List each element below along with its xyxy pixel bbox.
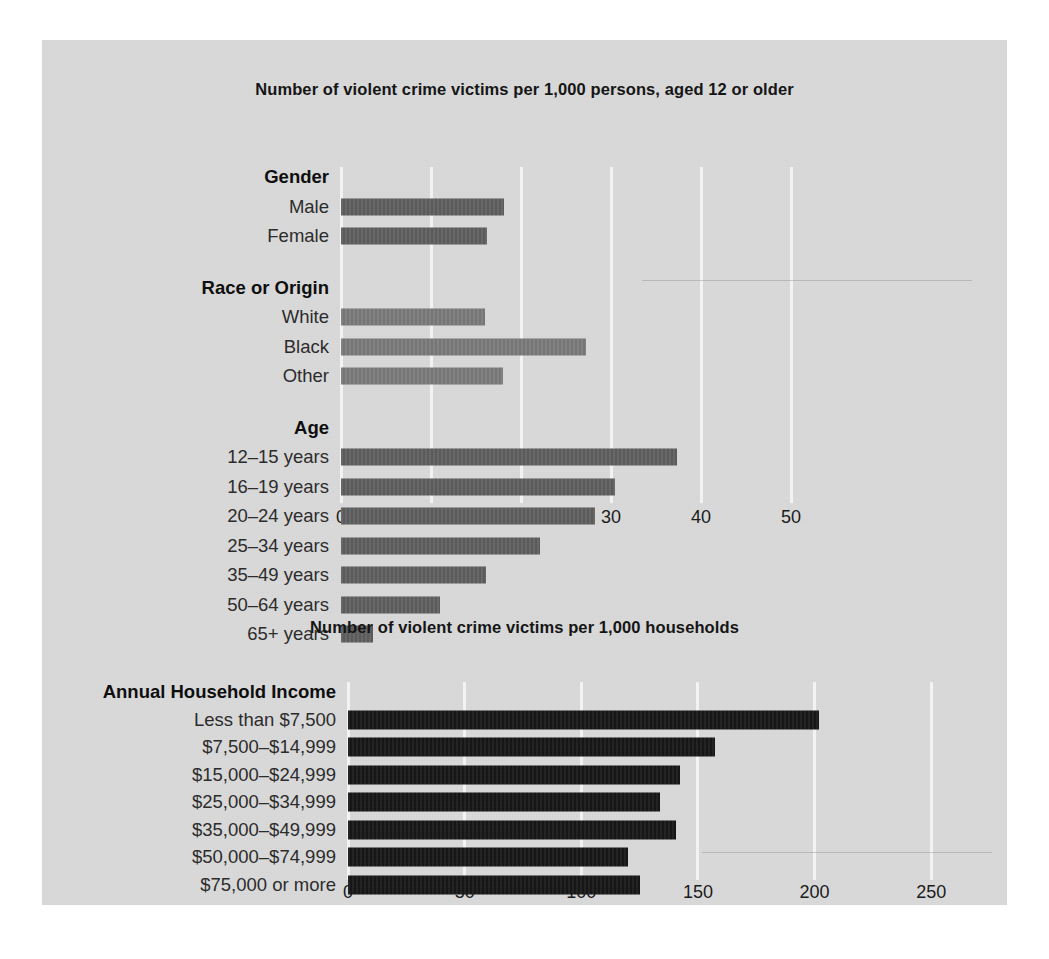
bar: [341, 478, 615, 495]
bar-row: White: [42, 307, 1007, 327]
top-chart-title: Number of violent crime victims per 1,00…: [42, 80, 1007, 99]
bar-row: $7,500–$14,999: [42, 737, 1007, 757]
category-label: $15,000–$24,999: [192, 764, 336, 786]
bar-row: 16–19 years: [42, 477, 1007, 497]
bar-row: 35–49 years: [42, 565, 1007, 585]
bar-row: $35,000–$49,999: [42, 820, 1007, 840]
bar: [341, 567, 486, 584]
page-root: Number of violent crime victims per 1,00…: [0, 0, 1049, 959]
bar: [348, 710, 819, 729]
category-label: Less than $7,500: [194, 709, 336, 731]
group-heading: Age: [294, 417, 329, 439]
category-label: $25,000–$34,999: [192, 791, 336, 813]
category-label: 35–49 years: [227, 564, 329, 586]
group-heading-row: Gender: [42, 167, 1007, 187]
bar: [341, 228, 487, 245]
category-label: Black: [284, 336, 329, 358]
bar: [341, 309, 485, 326]
bottom-chart-title: Number of violent crime victims per 1,00…: [42, 618, 1007, 637]
category-label: $35,000–$49,999: [192, 819, 336, 841]
bar-row: Female: [42, 226, 1007, 246]
bar-row: Other: [42, 366, 1007, 386]
bar: [341, 508, 595, 525]
category-label: Female: [267, 225, 329, 247]
bar-row: 50–64 years: [42, 595, 1007, 615]
bar-row: 25–34 years: [42, 536, 1007, 556]
poster-panel: Number of violent crime victims per 1,00…: [42, 40, 1007, 905]
category-label: 12–15 years: [227, 446, 329, 468]
bar: [341, 198, 504, 215]
bar-row: Less than $7,500: [42, 710, 1007, 730]
bottom-chart-plot-area: 050100150200250Annual Household IncomeLe…: [42, 652, 1007, 897]
bar-row: $50,000–$74,999: [42, 847, 1007, 867]
category-label: Other: [283, 365, 329, 387]
bar: [348, 793, 660, 812]
bar: [341, 338, 586, 355]
category-label: 20–24 years: [227, 505, 329, 527]
bar-row: 12–15 years: [42, 447, 1007, 467]
category-label: $7,500–$14,999: [202, 736, 336, 758]
category-label: White: [282, 306, 329, 328]
bar: [348, 820, 676, 839]
bar-row: Male: [42, 197, 1007, 217]
bar-row: $15,000–$24,999: [42, 765, 1007, 785]
bar: [348, 875, 640, 894]
group-heading: Race or Origin: [202, 277, 329, 299]
top-chart: 01020304050GenderMaleFemaleRace or Origi…: [42, 115, 1007, 535]
bar: [348, 738, 715, 757]
category-label: $50,000–$74,999: [192, 846, 336, 868]
category-label: Male: [289, 196, 329, 218]
category-label: 25–34 years: [227, 535, 329, 557]
bar: [341, 449, 677, 466]
group-heading: Annual Household Income: [103, 681, 336, 703]
bar: [348, 765, 680, 784]
group-heading-row: Age: [42, 418, 1007, 438]
bar-row: $75,000 or more: [42, 875, 1007, 895]
category-label: $75,000 or more: [200, 874, 336, 896]
bottom-chart: 050100150200250Annual Household IncomeLe…: [42, 652, 1007, 897]
top-chart-plot-area: 01020304050GenderMaleFemaleRace or Origi…: [42, 115, 1007, 535]
bar-row: Black: [42, 337, 1007, 357]
scan-artifact: [642, 280, 972, 281]
scan-artifact: [702, 852, 992, 853]
category-label: 16–19 years: [227, 476, 329, 498]
bar: [341, 368, 503, 385]
group-heading: Gender: [264, 166, 329, 188]
category-label: 50–64 years: [227, 594, 329, 616]
bar: [348, 848, 628, 867]
bar: [341, 537, 540, 554]
bar-row: 20–24 years: [42, 506, 1007, 526]
bar-row: $25,000–$34,999: [42, 792, 1007, 812]
bar: [341, 596, 440, 613]
group-heading-row: Annual Household Income: [42, 682, 1007, 702]
